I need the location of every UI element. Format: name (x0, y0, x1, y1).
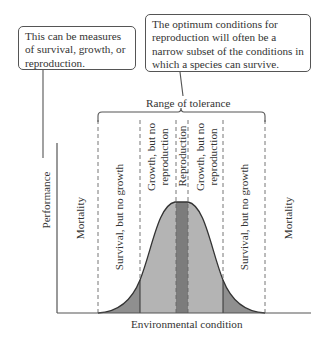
range-of-tolerance-label: Range of tolerance (146, 97, 231, 109)
zone-reproduction: Reproduction (176, 126, 189, 187)
x-axis-label: Environmental condition (131, 318, 243, 330)
right-callout-leader (180, 72, 183, 96)
callout-optimum-conditions: The optimum conditions for reproduction … (145, 14, 311, 72)
zone-growth-right-line2: reproduction (206, 123, 219, 191)
zone-growth-left: Growth, but no reproduction (145, 123, 170, 191)
callout-measures: This can be measures of survival, growth… (18, 26, 136, 70)
zone-growth-left-line1: Growth, but no (145, 123, 158, 191)
zone-mortality-left: Mortality (74, 197, 87, 239)
zone-growth-left-line2: reproduction (157, 123, 170, 191)
y-axis-label: Performance (40, 171, 53, 228)
tolerance-bracket (98, 108, 265, 122)
zone-survival-right: Survival, but no growth (238, 164, 251, 270)
zone-survival-left: Survival, but no growth (113, 164, 126, 270)
zone-mortality-right: Mortality (282, 197, 295, 239)
zone-growth-right-line1: Growth, but no (194, 123, 207, 191)
zone-growth-right: Growth, but no reproduction (194, 123, 219, 191)
